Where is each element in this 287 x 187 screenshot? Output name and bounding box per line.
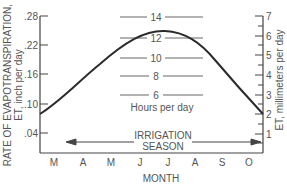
svg-text:A: A	[80, 157, 87, 168]
svg-text:14: 14	[150, 12, 162, 23]
right-ticks	[255, 16, 263, 143]
y-axis-title-line1: RATE OF EVAPOTRANSPIRATION,	[2, 4, 13, 166]
month-labels: M A M J J A S O	[50, 157, 253, 168]
svg-text:.04: .04	[24, 128, 38, 139]
y-axis-title-line2: ET, inch per day	[13, 49, 24, 121]
x-axis-title: MONTH	[143, 173, 180, 184]
evapotranspiration-chart: .28 .22 .16 .10 .04 7 6 5 4 3 2 1	[0, 0, 287, 187]
svg-text:4: 4	[266, 70, 272, 81]
svg-text:A: A	[192, 157, 199, 168]
y2-axis-title: ET, millimeters per day	[274, 29, 285, 130]
svg-text:.16: .16	[24, 69, 38, 80]
hours-per-day-labels: 14 12 10 8 6 Hours per day	[131, 12, 194, 113]
svg-text:1: 1	[266, 129, 272, 140]
svg-text:7: 7	[266, 11, 272, 22]
svg-text:O: O	[245, 157, 253, 168]
svg-text:3: 3	[266, 90, 272, 101]
svg-text:8: 8	[153, 71, 159, 82]
hours-per-day-label: Hours per day	[131, 102, 194, 113]
svg-text:5: 5	[266, 50, 272, 61]
svg-text:10: 10	[150, 53, 162, 64]
right-tick-labels: 7 6 5 4 3 2 1	[266, 11, 272, 140]
left-tick-labels: .28 .22 .16 .10 .04	[24, 11, 38, 139]
svg-text:.28: .28	[24, 11, 38, 22]
svg-text:2: 2	[266, 109, 272, 120]
svg-text:J: J	[138, 157, 143, 168]
svg-text:J: J	[166, 157, 171, 168]
svg-text:M: M	[50, 157, 58, 168]
svg-text:.22: .22	[24, 40, 38, 51]
svg-text:.10: .10	[24, 99, 38, 110]
svg-text:S: S	[219, 157, 226, 168]
irrigation-label-line2: SEASON	[142, 141, 184, 152]
svg-text:6: 6	[266, 31, 272, 42]
svg-text:6: 6	[153, 90, 159, 101]
svg-text:M: M	[107, 157, 115, 168]
svg-text:12: 12	[150, 33, 162, 44]
irrigation-label-line1: IRRIGATION	[134, 130, 192, 141]
left-ticks	[40, 16, 48, 133]
